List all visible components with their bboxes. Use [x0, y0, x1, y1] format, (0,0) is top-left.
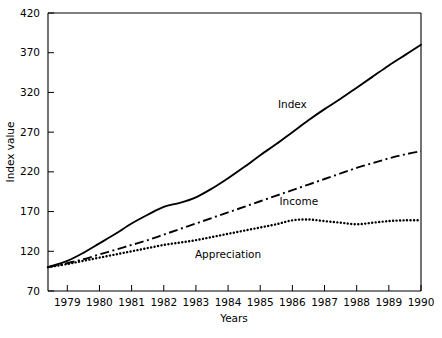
y-axis-ticks: [48, 13, 54, 291]
x-tick-label: 1989: [375, 296, 402, 308]
x-tick-label: 1990: [408, 296, 435, 308]
y-tick-label: 220: [20, 165, 40, 177]
series-label-index: Index: [278, 98, 307, 110]
series-inline-labels: IndexIncomeAppreciation: [195, 98, 318, 259]
y-tick-label: 420: [20, 7, 40, 19]
x-tick-label: 1982: [150, 296, 177, 308]
y-axis-tick-labels: 70120170220270320370420: [20, 7, 40, 297]
x-tick-label: 1983: [183, 296, 210, 308]
x-tick-label: 1980: [86, 296, 113, 308]
y-tick-label: 70: [27, 285, 40, 297]
series-line-appreciation: [48, 219, 421, 267]
x-tick-label: 1984: [215, 296, 242, 308]
y-tick-label: 320: [20, 86, 40, 98]
y-tick-label: 170: [20, 205, 40, 217]
y-tick-label: 370: [20, 46, 40, 58]
data-series-group: [48, 45, 421, 267]
x-axis-ticks: [67, 285, 421, 291]
x-axis-tick-labels: 1979198019811982198319841985198619871988…: [54, 296, 434, 308]
series-label-appreciation: Appreciation: [195, 248, 261, 260]
chart-canvas: 70120170220270320370420 1979198019811982…: [0, 0, 442, 338]
x-tick-label: 1988: [343, 296, 370, 308]
index-value-line-chart: 70120170220270320370420 1979198019811982…: [0, 0, 442, 338]
x-tick-label: 1986: [279, 296, 306, 308]
y-tick-label: 270: [20, 126, 40, 138]
x-tick-label: 1985: [247, 296, 274, 308]
x-tick-label: 1981: [118, 296, 145, 308]
series-label-income: Income: [279, 195, 318, 207]
y-axis-title: Index value: [4, 122, 16, 183]
y-tick-label: 120: [20, 245, 40, 257]
x-tick-label: 1979: [54, 296, 81, 308]
series-line-index: [48, 45, 421, 267]
x-axis-title: Years: [219, 312, 248, 324]
x-tick-label: 1987: [311, 296, 338, 308]
